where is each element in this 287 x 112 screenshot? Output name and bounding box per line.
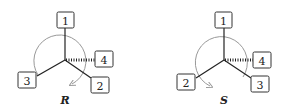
group-box-lower-left: 2 — [177, 74, 195, 90]
group-box-lower-right: 3 — [251, 76, 269, 92]
configuration-caption: R — [59, 94, 69, 107]
group-box-right: 4 — [253, 52, 271, 68]
bond-lower-left — [37, 60, 65, 76]
group-label: 4 — [101, 54, 108, 67]
rotation-arrow-clockwise — [34, 35, 86, 84]
group-box-top: 1 — [57, 12, 74, 28]
bond-lower-left — [196, 60, 224, 78]
group-label: 4 — [259, 55, 266, 68]
bond-lower-right — [65, 60, 91, 78]
group-label: 1 — [220, 15, 227, 28]
group-label: 3 — [257, 79, 264, 92]
group-box-lower-right: 2 — [91, 77, 109, 93]
configuration-caption: S — [220, 94, 228, 107]
group-label: 2 — [97, 80, 104, 93]
group-box-right: 4 — [95, 51, 113, 67]
group-box-top: 1 — [215, 12, 232, 28]
group-label: 3 — [24, 75, 31, 88]
group-label: 1 — [62, 15, 69, 28]
chirality-figure: 1 4 3 2 R 1 4 2 — [0, 0, 287, 112]
group-label: 2 — [183, 77, 190, 90]
s-configuration-diagram: 1 4 2 3 S — [177, 12, 271, 107]
r-configuration-diagram: 1 4 3 2 R — [18, 12, 113, 107]
group-box-lower-left: 3 — [18, 72, 36, 88]
